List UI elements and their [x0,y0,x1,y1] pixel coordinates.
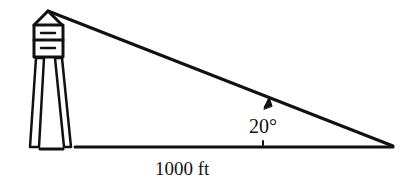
water-tower-icon [30,11,71,147]
distance-label: 1000 ft [155,158,210,179]
line-of-sight [48,11,393,146]
angle-label: 20° [249,115,277,137]
tower-triangle-diagram: 20° 1000 ft [0,0,407,188]
